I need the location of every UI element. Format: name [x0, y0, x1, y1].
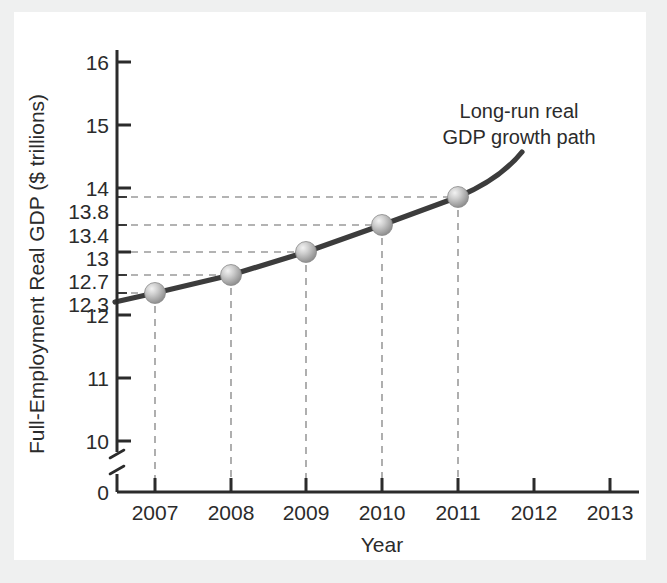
gdp-growth-line-chart: 16 15 14 13.8 13.4 13 12.7 12.3 12 11 10… — [14, 12, 646, 560]
x-tick-label-2007: 2007 — [132, 501, 179, 524]
y-axis-tick-labels: 16 15 14 13.8 13.4 13 12.7 12.3 12 11 10… — [68, 51, 109, 504]
y-tick-label-12: 12 — [86, 304, 109, 327]
curve-annotation-line2: GDP growth path — [442, 126, 595, 148]
x-axis-ticks — [155, 478, 610, 492]
y-tick-label-13: 13 — [86, 247, 109, 270]
data-point-2008[interactable] — [221, 265, 242, 286]
y-axis-break-symbol — [110, 450, 124, 474]
y-tick-label-16: 16 — [86, 51, 109, 74]
y-tick-label-13-4: 13.4 — [68, 224, 109, 247]
x-tick-label-2010: 2010 — [359, 501, 406, 524]
y-tick-label-14: 14 — [86, 177, 110, 200]
y-tick-label-15: 15 — [86, 114, 109, 137]
data-point-2011[interactable] — [448, 187, 469, 208]
x-tick-label-2009: 2009 — [283, 501, 330, 524]
curve-annotation-line1: Long-run real — [460, 100, 579, 122]
x-tick-label-2008: 2008 — [208, 501, 255, 524]
x-axis-title: Year — [361, 533, 403, 556]
data-point-2009[interactable] — [296, 242, 317, 263]
data-point-2007[interactable] — [145, 283, 166, 304]
y-axis-title: Full-Employment Real GDP ($ trillions) — [25, 94, 48, 454]
x-tick-label-2013: 2013 — [587, 501, 634, 524]
y-tick-label-13-8: 13.8 — [68, 200, 109, 223]
y-tick-label-0: 0 — [97, 481, 109, 504]
data-point-2010[interactable] — [372, 215, 393, 236]
x-tick-label-2011: 2011 — [435, 501, 480, 524]
curve-annotation: Long-run real GDP growth path — [442, 100, 595, 148]
x-axis-tick-labels: 2007 2008 2009 2010 2011 2012 2013 — [132, 501, 634, 524]
y-tick-label-12-7: 12.7 — [68, 270, 109, 293]
x-tick-label-2012: 2012 — [511, 501, 558, 524]
figure-container: 16 15 14 13.8 13.4 13 12.7 12.3 12 11 10… — [0, 0, 667, 583]
y-tick-label-10: 10 — [86, 430, 109, 453]
chart-panel: 16 15 14 13.8 13.4 13 12.7 12.3 12 11 10… — [14, 12, 646, 560]
y-axis-ticks — [117, 62, 131, 441]
horizontal-guide-lines — [118, 197, 458, 293]
y-tick-label-11: 11 — [87, 367, 109, 390]
gdp-growth-path-curve — [115, 152, 522, 302]
